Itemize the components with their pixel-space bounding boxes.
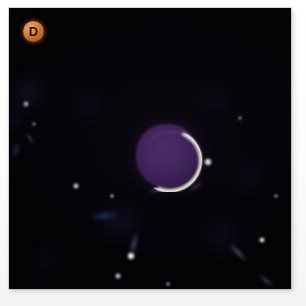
- knot-right-blob: [204, 158, 212, 166]
- knot-lower-left: [115, 273, 120, 278]
- panel-label-letter: D: [29, 25, 38, 38]
- neb-bottom-left: [28, 248, 64, 276]
- neb-right-upper: [193, 79, 231, 113]
- knot-top-right: [238, 116, 242, 120]
- neb-right-mid: [231, 159, 265, 193]
- panel-label-badge: D: [23, 21, 44, 42]
- neb-upper-mid: [73, 86, 103, 122]
- bright-limb-arc: [152, 130, 208, 192]
- knot-upper-left-a: [23, 101, 29, 107]
- image-plate: D: [9, 8, 291, 289]
- crescent-core: [152, 130, 208, 192]
- figure-panel: D: [0, 0, 306, 306]
